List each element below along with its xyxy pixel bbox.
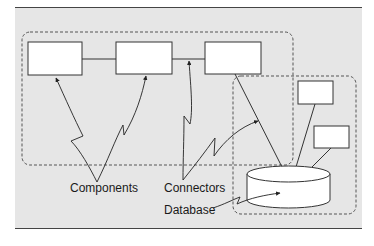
component-box-1[interactable]: [28, 42, 82, 75]
label-components: Components: [70, 181, 138, 195]
label-database: Database: [164, 203, 216, 217]
client-box-a[interactable]: [298, 81, 333, 104]
client-box-b[interactable]: [314, 126, 349, 148]
component-box-2[interactable]: [116, 42, 172, 74]
label-connectors: Connectors: [164, 181, 225, 195]
database-cylinder[interactable]: [247, 166, 330, 208]
architecture-diagram: Components Connectors Database: [0, 0, 374, 246]
component-box-3[interactable]: [205, 42, 261, 74]
